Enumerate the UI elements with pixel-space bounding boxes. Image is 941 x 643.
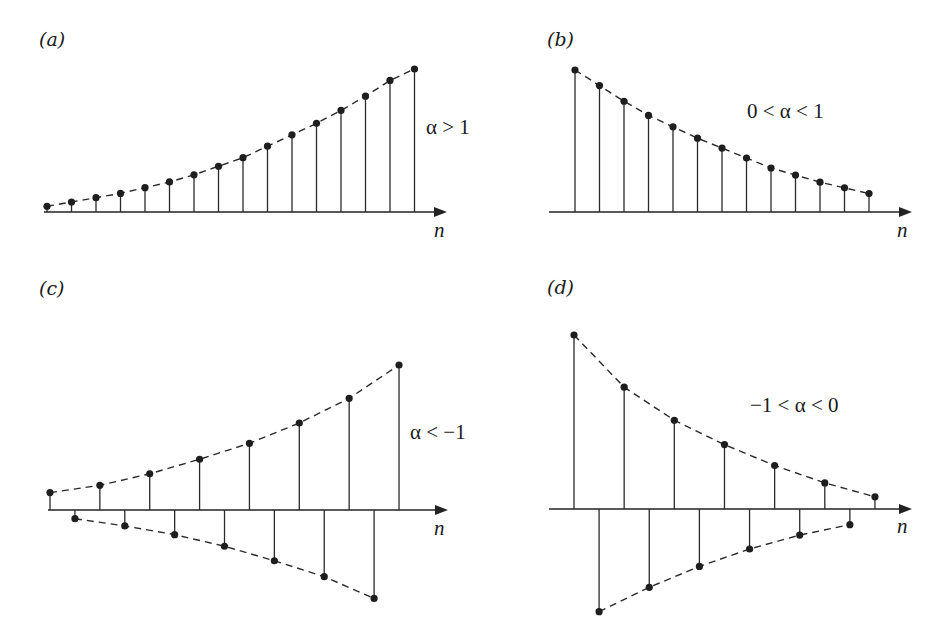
sample-dot xyxy=(816,179,823,186)
sample-dot xyxy=(596,82,603,89)
condition-label-b: 0 < α < 1 xyxy=(747,99,824,123)
sample-dot xyxy=(246,440,253,447)
sample-dot xyxy=(743,154,750,161)
n-axis-label-b: n xyxy=(897,218,908,242)
sample-dot xyxy=(411,65,418,72)
sample-dot xyxy=(92,194,99,201)
sample-dot xyxy=(865,190,872,197)
sample-dot xyxy=(337,107,344,114)
sample-dot xyxy=(146,470,153,477)
sample-dot xyxy=(221,543,228,550)
sample-dot xyxy=(841,184,848,191)
sample-dot xyxy=(239,154,246,161)
panel-c-plot xyxy=(46,361,448,602)
sample-dot xyxy=(721,441,728,448)
sample-dot xyxy=(288,131,295,138)
panel-c: (c) α < −1 n xyxy=(39,277,466,602)
sample-dot xyxy=(746,545,753,552)
sample-dot xyxy=(190,171,197,178)
sample-dot xyxy=(671,417,678,424)
axis-arrow-icon xyxy=(899,504,912,514)
sample-dot xyxy=(386,77,393,84)
sample-dot xyxy=(694,135,701,142)
panel-label-d: (d) xyxy=(547,276,574,298)
sample-dot xyxy=(696,563,703,570)
condition-label-a: α > 1 xyxy=(426,115,470,139)
panel-b: (b) 0 < α < 1 n xyxy=(547,28,912,242)
sample-dot xyxy=(718,145,725,152)
sample-dot xyxy=(395,361,402,368)
axis-arrow-icon xyxy=(434,207,447,217)
sample-dot xyxy=(645,112,652,119)
sample-dot xyxy=(346,395,353,402)
sample-dot xyxy=(570,331,577,338)
panel-label-c: (c) xyxy=(39,277,64,299)
sample-dot xyxy=(313,120,320,127)
sample-dot xyxy=(370,595,377,602)
sample-dot xyxy=(669,123,676,130)
panel-d-plot xyxy=(549,331,912,615)
dashed-envelope-curve xyxy=(47,69,415,206)
panel-label-a: (a) xyxy=(39,28,65,50)
sample-dot xyxy=(43,203,50,210)
dashed-envelope-curve xyxy=(599,525,850,612)
sample-dot xyxy=(271,557,278,564)
sample-dot xyxy=(117,190,124,197)
sample-dot xyxy=(646,584,653,591)
panel-a: (a) α > 1 n xyxy=(39,28,470,242)
sample-dot xyxy=(846,521,853,528)
condition-label-d: −1 < α < 0 xyxy=(750,393,839,417)
sample-dot xyxy=(171,531,178,538)
axis-arrow-icon xyxy=(899,207,912,217)
sample-dot xyxy=(166,178,173,185)
sample-dot xyxy=(296,419,303,426)
sample-dot xyxy=(792,171,799,178)
sample-dot xyxy=(796,532,803,539)
sample-dot xyxy=(264,143,271,150)
panel-b-plot xyxy=(549,66,912,217)
sample-dot xyxy=(121,522,128,529)
sample-dot xyxy=(771,462,778,469)
sample-dot xyxy=(196,456,203,463)
sample-dot xyxy=(71,515,78,522)
sample-dot xyxy=(46,489,53,496)
sample-dot xyxy=(767,164,774,171)
condition-label-c: α < −1 xyxy=(410,420,466,444)
panel-a-plot xyxy=(43,65,447,217)
sample-dot xyxy=(620,98,627,105)
n-axis-label-d: n xyxy=(897,514,908,538)
sample-dot xyxy=(215,163,222,170)
sample-dot xyxy=(621,384,628,391)
axis-arrow-icon xyxy=(435,505,448,515)
panel-d: (d) −1 < α < 0 n xyxy=(547,276,912,615)
n-axis-label-a: n xyxy=(434,218,445,242)
stem-plot-figure: (a) α > 1 n (b) 0 < α < 1 n (c) α < −1 n… xyxy=(0,0,941,643)
sample-dot xyxy=(571,66,578,73)
panel-label-b: (b) xyxy=(547,28,574,50)
sample-dot xyxy=(321,573,328,580)
sample-dot xyxy=(362,93,369,100)
sample-dot xyxy=(141,184,148,191)
sample-dot xyxy=(595,608,602,615)
sample-dot xyxy=(821,479,828,486)
dashed-envelope-curve xyxy=(50,365,399,493)
sample-dot xyxy=(871,493,878,500)
sample-dot xyxy=(96,482,103,489)
sample-dot xyxy=(68,198,75,205)
n-axis-label-c: n xyxy=(434,516,445,540)
